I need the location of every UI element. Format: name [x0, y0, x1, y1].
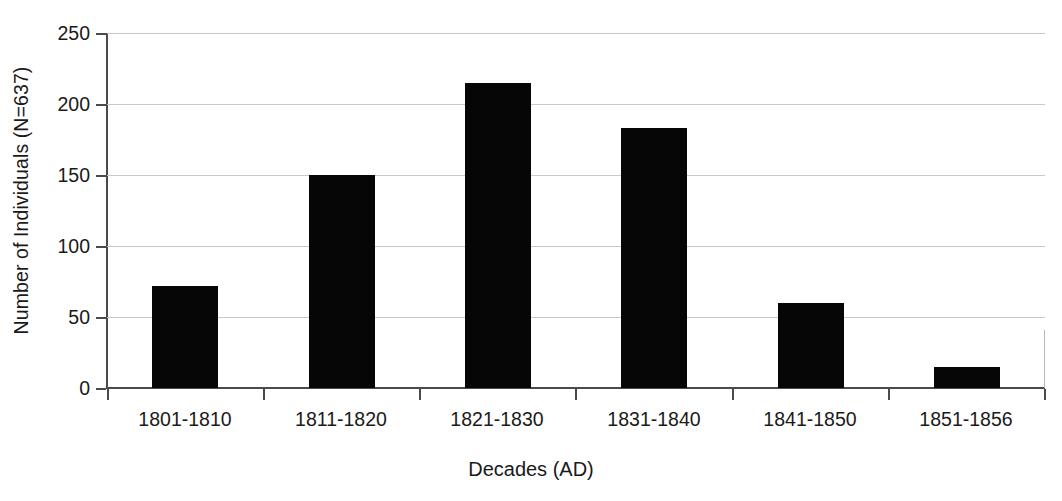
x-tick-mark-4	[732, 389, 734, 400]
x-tick-label-1801-1810: 1801-1810	[100, 408, 270, 431]
y-tick-mark-200	[96, 104, 106, 106]
x-tick-mark-1	[263, 389, 265, 400]
gridline-200	[107, 104, 1045, 105]
x-tick-label-1841-1850: 1841-1850	[725, 408, 895, 431]
x-tick-label-1811-1820: 1811-1820	[256, 408, 426, 431]
y-tick-label-50: 50	[24, 306, 90, 329]
x-tick-mark-2	[419, 389, 421, 400]
gridline-100	[107, 246, 1045, 247]
bar-1821-1830[interactable]	[465, 83, 531, 388]
y-tick-label-200: 200	[24, 93, 90, 116]
gridline-250	[107, 33, 1045, 34]
bar-1851-1856[interactable]	[934, 367, 1000, 388]
x-axis-title: Decades (AD)	[0, 458, 1062, 481]
y-tick-mark-150	[96, 175, 106, 177]
y-tick-label-250: 250	[24, 22, 90, 45]
y-tick-mark-50	[96, 317, 106, 319]
y-tick-mark-100	[96, 246, 106, 248]
x-tick-mark-5	[888, 389, 890, 400]
y-tick-mark-0	[96, 388, 106, 390]
y-axis-title: Number of Individuals (N=637)	[0, 0, 44, 400]
bar-chart-figure: Number of Individuals (N=637) 250 200 15…	[0, 0, 1062, 501]
x-tick-mark-3	[575, 389, 577, 400]
plot-area	[107, 33, 1045, 388]
gridline-150	[107, 175, 1045, 176]
y-tick-label-150: 150	[24, 164, 90, 187]
x-tick-mark-6	[1044, 389, 1046, 400]
x-tick-mark-0	[107, 389, 109, 400]
x-tick-label-1851-1856: 1851-1856	[881, 408, 1051, 431]
bar-1801-1810[interactable]	[152, 286, 218, 388]
y-tick-label-0: 0	[24, 377, 90, 400]
x-tick-label-1831-1840: 1831-1840	[569, 408, 739, 431]
y-tick-mark-250	[96, 33, 106, 35]
bar-1831-1840[interactable]	[621, 128, 687, 388]
bar-1841-1850[interactable]	[778, 303, 844, 388]
x-tick-label-1821-1830: 1821-1830	[412, 408, 582, 431]
bar-1811-1820[interactable]	[309, 175, 375, 388]
y-tick-label-100: 100	[24, 235, 90, 258]
gridline-50	[107, 317, 1045, 318]
